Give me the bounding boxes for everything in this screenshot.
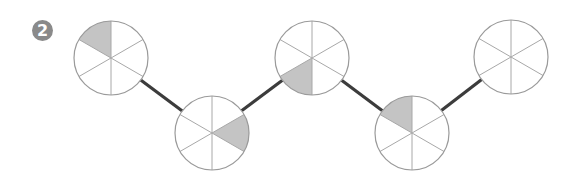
circle-3 — [275, 21, 349, 95]
circle-5 — [474, 20, 548, 94]
sector-circles — [74, 20, 548, 170]
circle-4 — [375, 96, 449, 170]
connector-line — [342, 80, 383, 111]
connector-line — [441, 80, 481, 111]
circle-1 — [74, 21, 148, 95]
connector-line — [141, 80, 183, 111]
sector-circles-diagram — [0, 0, 576, 188]
connector-line — [242, 80, 283, 111]
circle-2 — [175, 96, 249, 170]
